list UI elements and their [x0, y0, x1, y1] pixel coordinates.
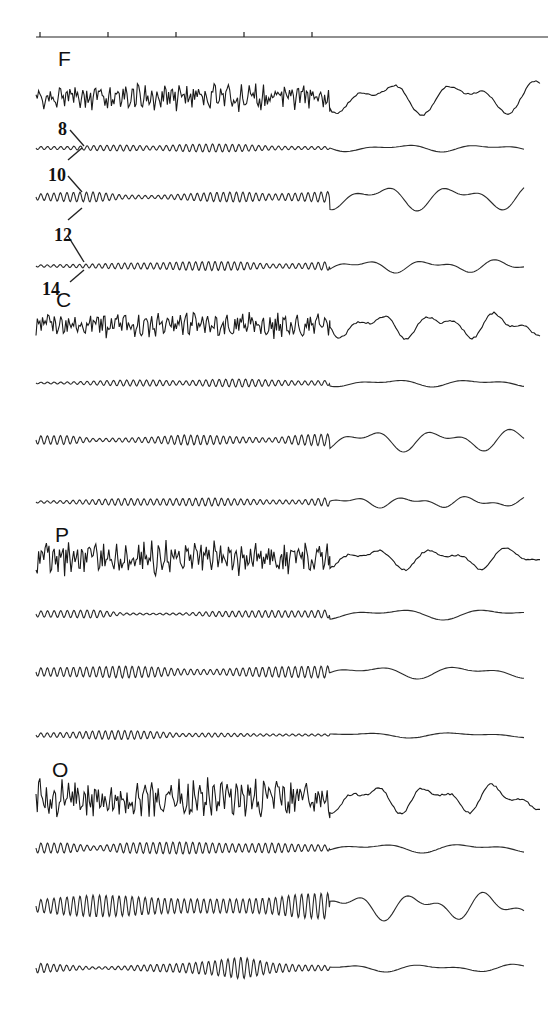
band-trace-8hz	[36, 379, 524, 387]
eeg-figure	[0, 0, 560, 1010]
band-leader-lines	[68, 130, 84, 282]
band-trace-10hz	[36, 188, 524, 211]
band-trace-10hz	[36, 892, 524, 921]
raw-eeg-trace	[36, 81, 540, 116]
raw-eeg-trace	[36, 540, 540, 576]
lead-label-o: O	[52, 759, 68, 780]
lead-label-f: F	[58, 48, 71, 69]
trace-group-f	[36, 81, 540, 273]
band-trace-12hz	[36, 958, 524, 979]
trace-groups	[36, 81, 540, 979]
raw-eeg-trace	[36, 312, 540, 339]
band-trace-12hz	[36, 497, 524, 508]
band-leader-line	[68, 208, 82, 220]
time-scale	[36, 32, 548, 37]
raw-eeg-trace	[36, 777, 540, 818]
band-label-14hz: 14	[42, 280, 60, 298]
band-trace-8hz	[36, 842, 524, 854]
trace-group-c	[36, 312, 540, 508]
band-trace-12hz	[36, 260, 524, 273]
band-trace-10hz	[36, 666, 524, 679]
band-trace-8hz	[36, 144, 524, 152]
band-trace-12hz	[36, 731, 524, 740]
trace-group-o	[36, 777, 540, 978]
band-leader-line	[70, 270, 84, 282]
band-trace-8hz	[36, 610, 524, 620]
band-label-10hz: 10	[48, 166, 66, 184]
trace-group-p	[36, 540, 540, 739]
band-leader-line	[68, 176, 82, 192]
lead-label-p: P	[55, 524, 69, 545]
band-label-12hz: 12	[54, 226, 72, 244]
band-label-8hz: 8	[58, 120, 67, 138]
band-trace-10hz	[36, 429, 524, 452]
band-leader-line	[70, 130, 84, 146]
